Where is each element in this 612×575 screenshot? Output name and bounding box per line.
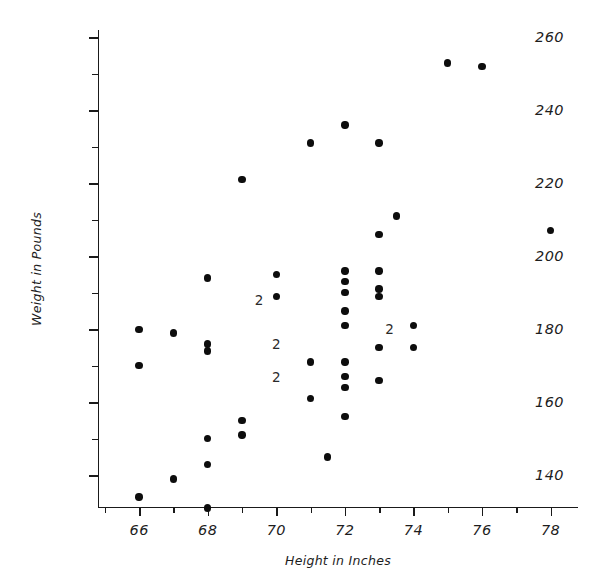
y-tick-major: [89, 256, 98, 257]
plot-area: 140160180200220240260 66687072747678 222…: [98, 30, 578, 508]
data-point: [341, 278, 348, 285]
data-point: [375, 293, 382, 300]
x-tick-major: [345, 507, 346, 516]
data-point: [307, 358, 314, 365]
data-point: [375, 344, 382, 351]
data-point: [341, 289, 348, 296]
x-tick-minor: [379, 507, 380, 513]
data-point: [204, 274, 211, 281]
data-point: [324, 453, 331, 460]
data-point: [135, 362, 142, 369]
x-tick-label: 78: [541, 522, 560, 538]
scatter-plot-figure: 140160180200220240260 66687072747678 222…: [0, 0, 612, 575]
x-tick-label: 74: [404, 522, 423, 538]
x-tick-minor: [242, 507, 243, 513]
x-tick-minor: [516, 507, 517, 513]
data-point: [341, 322, 348, 329]
data-point: [444, 59, 451, 66]
data-point: [410, 322, 417, 329]
data-point: [238, 431, 245, 438]
y-tick-minor: [92, 439, 98, 440]
y-axis-line: [98, 30, 99, 508]
data-point: [547, 227, 554, 234]
overlap-count-label: 2: [272, 336, 281, 352]
x-tick-label: 76: [472, 522, 491, 538]
x-tick-major: [482, 507, 483, 516]
y-tick-minor: [92, 366, 98, 367]
data-point: [170, 475, 177, 482]
x-axis-line: [98, 507, 578, 508]
y-tick-minor: [92, 74, 98, 75]
data-point: [238, 176, 245, 183]
data-point: [478, 63, 485, 70]
y-tick-label: 180: [535, 321, 564, 337]
x-tick-minor: [448, 507, 449, 513]
data-point: [135, 326, 142, 333]
data-point: [341, 358, 348, 365]
x-tick-label: 72: [335, 522, 354, 538]
x-tick-label: 70: [267, 522, 286, 538]
overlap-count-label: 2: [272, 369, 281, 385]
y-tick-minor: [92, 147, 98, 148]
data-point: [204, 435, 211, 442]
x-axis-title: Height in Inches: [98, 553, 578, 568]
x-tick-major: [276, 507, 277, 516]
x-tick-minor: [173, 507, 174, 513]
data-point: [341, 373, 348, 380]
y-tick-label: 200: [535, 248, 564, 264]
data-point: [273, 293, 280, 300]
data-point: [238, 417, 245, 424]
data-point: [341, 307, 348, 314]
data-point: [375, 377, 382, 384]
overlap-count-label: 2: [385, 321, 394, 337]
data-point: [375, 139, 382, 146]
x-tick-major: [551, 507, 552, 516]
y-tick-label: 220: [535, 175, 564, 191]
data-point: [341, 413, 348, 420]
x-tick-label: 68: [198, 522, 217, 538]
y-tick-major: [89, 475, 98, 476]
y-tick-major: [89, 183, 98, 184]
y-tick-major: [89, 37, 98, 38]
data-point: [307, 395, 314, 402]
data-point: [170, 329, 177, 336]
data-point: [204, 347, 211, 354]
y-tick-label: 160: [535, 394, 564, 410]
overlap-count-label: 2: [255, 292, 264, 308]
data-point: [135, 493, 142, 500]
x-tick-minor: [105, 507, 106, 513]
data-point: [375, 267, 382, 274]
x-tick-label: 66: [130, 522, 149, 538]
y-tick-label: 260: [535, 29, 564, 45]
x-tick-major: [413, 507, 414, 516]
data-point: [375, 285, 382, 292]
data-point: [273, 271, 280, 278]
data-point: [341, 384, 348, 391]
data-point: [204, 461, 211, 468]
y-tick-minor: [92, 220, 98, 221]
y-tick-major: [89, 110, 98, 111]
data-point: [410, 344, 417, 351]
data-point: [307, 139, 314, 146]
data-point: [341, 267, 348, 274]
y-axis-title: Weight in Pounds: [29, 212, 44, 326]
x-tick-minor: [311, 507, 312, 513]
y-tick-label: 140: [535, 467, 564, 483]
y-tick-minor: [92, 293, 98, 294]
data-point: [375, 231, 382, 238]
data-point: [204, 504, 211, 511]
data-point: [341, 121, 348, 128]
data-point: [204, 340, 211, 347]
y-tick-major: [89, 402, 98, 403]
y-tick-label: 240: [535, 102, 564, 118]
y-tick-major: [89, 329, 98, 330]
x-tick-major: [139, 507, 140, 516]
data-point: [393, 212, 400, 219]
